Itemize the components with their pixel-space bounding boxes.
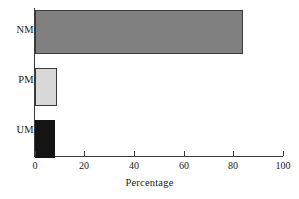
x-tick-label-0: 0 — [15, 160, 55, 171]
x-tick-label-60: 60 — [164, 160, 204, 171]
x-tick-mark-100 — [283, 151, 284, 156]
x-tick-mark-0 — [35, 151, 36, 156]
category-label-um: UM — [4, 124, 34, 135]
x-tick-label-20: 20 — [64, 160, 104, 171]
x-tick-mark-40 — [134, 151, 135, 156]
x-tick-label-40: 40 — [114, 160, 154, 171]
x-tick-mark-80 — [233, 151, 234, 156]
x-axis-title: Percentage — [0, 177, 299, 188]
x-tick-mark-60 — [184, 151, 185, 156]
plot-area — [35, 8, 283, 156]
bar-chart: NM PM UM 0 20 40 60 80 100 Percentage — [0, 0, 299, 199]
category-label-pm: PM — [4, 74, 34, 85]
bar-nm — [35, 10, 243, 54]
bar-pm — [35, 68, 57, 106]
bar-um — [35, 120, 55, 158]
category-label-nm: NM — [4, 24, 34, 35]
x-tick-mark-20 — [84, 151, 85, 156]
x-tick-label-80: 80 — [213, 160, 253, 171]
x-axis-line — [34, 156, 283, 157]
x-tick-label-100: 100 — [263, 160, 299, 171]
